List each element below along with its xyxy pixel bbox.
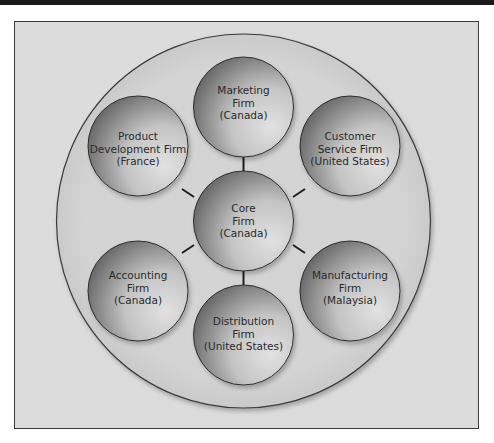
- label-line: Firm: [189, 328, 299, 341]
- label-line: (United States): [295, 155, 405, 168]
- label-line: Accounting: [83, 269, 193, 282]
- label-line: (Malaysia): [295, 294, 405, 307]
- label-distribution: Distribution Firm (United States): [189, 315, 299, 353]
- label-line: Firm: [189, 97, 299, 110]
- label-line: Firm: [83, 282, 193, 295]
- label-customer-service: Customer Service Firm (United States): [295, 130, 405, 168]
- label-product-development: Product Development Firm (France): [83, 130, 193, 168]
- label-line: Product: [83, 130, 193, 143]
- label-line: (Canada): [189, 227, 299, 240]
- label-line: Firm: [189, 215, 299, 228]
- label-line: Distribution: [189, 315, 299, 328]
- label-line: (France): [83, 155, 193, 168]
- label-line: (Canada): [189, 109, 299, 122]
- label-line: Marketing: [189, 84, 299, 97]
- label-line: Customer: [295, 130, 405, 143]
- label-line: (Canada): [83, 294, 193, 307]
- label-marketing: Marketing Firm (Canada): [189, 84, 299, 122]
- label-accounting: Accounting Firm (Canada): [83, 269, 193, 307]
- label-line: Manufacturing: [295, 269, 405, 282]
- label-manufacturing: Manufacturing Firm (Malaysia): [295, 269, 405, 307]
- label-line: Firm: [295, 282, 405, 295]
- label-line: Core: [189, 202, 299, 215]
- label-core: Core Firm (Canada): [189, 202, 299, 240]
- label-line: (United States): [189, 340, 299, 353]
- label-line: Development Firm: [83, 143, 193, 156]
- label-line: Service Firm: [295, 143, 405, 156]
